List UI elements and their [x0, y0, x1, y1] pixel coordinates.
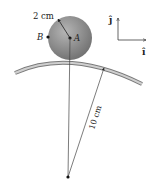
- point-a-label: A: [73, 33, 80, 43]
- center-point: [66, 175, 69, 178]
- i-unit-label: î: [142, 47, 146, 57]
- unit-axes: ĵ î: [108, 15, 146, 57]
- point-b-label: B: [36, 32, 43, 42]
- diagram: 2 cm B A 10 cm ĵ î: [0, 0, 152, 183]
- ball-radius-label: 2 cm: [33, 11, 54, 21]
- track-radius-label: 10 cm: [87, 104, 103, 131]
- track-radius-arrow: [68, 68, 104, 177]
- curved-track: [15, 63, 142, 84]
- j-unit-label: ĵ: [108, 15, 113, 25]
- point-b: [46, 35, 49, 38]
